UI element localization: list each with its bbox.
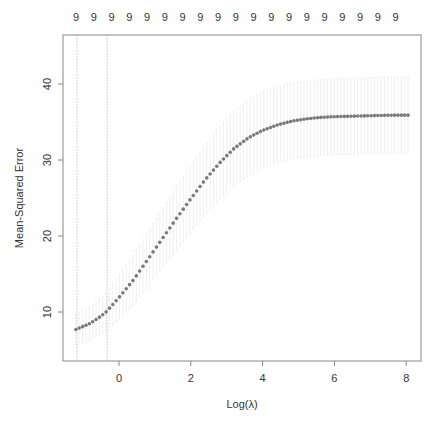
data-point [373,114,377,118]
data-point [296,118,300,122]
data-point [363,114,367,118]
plot-frame [63,35,421,361]
data-point [292,119,296,123]
data-point [396,113,400,117]
data-point [155,245,159,249]
data-point [252,133,256,137]
data-point [342,115,346,119]
data-point [202,180,206,184]
data-point [289,120,293,124]
y-tick-label: 40 [41,78,53,90]
top-axis-label: 9 [268,11,274,23]
y-axis-title: Mean-Squared Error [13,148,25,249]
data-point [77,326,81,330]
top-axis-label: 9 [215,11,221,23]
data-point [269,126,273,130]
top-axis-label: 9 [179,11,185,23]
data-point [349,114,353,118]
data-point [249,135,253,139]
top-axis-label: 9 [357,11,363,23]
data-point [148,255,152,259]
data-point [228,150,232,154]
data-point [383,114,387,118]
data-point [255,131,259,135]
data-point [245,137,249,141]
data-point [141,264,145,268]
data-point [366,114,370,118]
top-axis-label: 9 [91,11,97,23]
data-point [379,114,383,118]
data-point [332,115,336,119]
data-point [185,203,189,207]
data-point [98,315,102,319]
data-point [212,168,216,172]
data-point [262,128,266,132]
data-point [232,147,236,151]
data-point [188,198,192,202]
data-point [205,176,209,180]
data-point [393,113,397,117]
data-point [124,287,128,291]
data-point [272,124,276,128]
data-point [282,121,286,125]
data-point [312,116,316,120]
data-point [101,313,105,317]
data-point [111,303,115,307]
data-point [299,118,303,122]
data-point [131,279,135,283]
y-axis: 10203040 [41,78,63,318]
data-point [235,145,239,149]
data-point [192,194,196,198]
data-point [195,189,199,193]
data-point [181,207,185,211]
top-axis-label: 9 [339,11,345,23]
data-point [161,236,165,240]
top-axis-label: 9 [73,11,79,23]
y-tick-label: 10 [41,306,53,318]
data-point [376,114,380,118]
top-axis-label: 9 [108,11,114,23]
data-point [353,114,357,118]
data-point [406,113,410,117]
data-point [165,231,169,235]
data-point [138,269,142,273]
data-point [279,122,283,126]
data-point [91,320,95,324]
top-axis-label: 9 [321,11,327,23]
data-point [158,241,162,245]
data-point [134,274,138,278]
y-tick-label: 20 [41,230,53,242]
data-point [359,114,363,118]
data-point [84,323,88,327]
data-point [339,115,343,119]
data-point [118,295,122,299]
cv-mse-chart: 02468 10203040 9999999999999999999 Log(λ… [0,0,436,423]
data-point [178,212,182,216]
data-point [322,115,326,119]
data-point [208,172,212,176]
data-point [242,140,246,144]
data-point [114,299,118,303]
top-axis-label: 9 [126,11,132,23]
x-axis: 02468 [116,361,409,384]
data-point [369,114,373,118]
data-point [74,328,78,332]
data-point [309,117,313,121]
data-point [175,217,179,221]
data-point [81,325,85,329]
top-axis-label: 9 [250,11,256,23]
data-point [104,310,108,314]
data-point [265,127,269,131]
top-axis-label: 9 [392,11,398,23]
top-axis-label: 9 [233,11,239,23]
x-tick-label: 4 [260,372,266,384]
data-point [399,113,403,117]
top-axis-label: 9 [286,11,292,23]
data-point [151,250,155,254]
data-point [88,322,92,326]
data-point [171,221,175,225]
data-point [222,157,226,161]
top-axis-label: 9 [375,11,381,23]
data-point [128,283,132,287]
top-axis-label: 9 [144,11,150,23]
